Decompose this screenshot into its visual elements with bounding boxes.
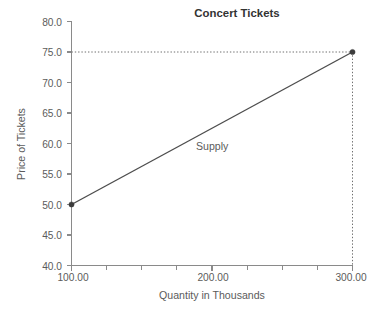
x-tick-label-300: 300.00 bbox=[335, 272, 366, 283]
y-tick-label-70: 70.0 bbox=[42, 78, 62, 89]
y-tick-label-80: 80.0 bbox=[42, 17, 62, 28]
y-tick-label-75: 75.0 bbox=[42, 47, 62, 58]
y-tick-label-60: 60.0 bbox=[42, 139, 62, 150]
supply-point-high bbox=[350, 49, 355, 54]
y-axis-title: Price of Tickets bbox=[15, 108, 27, 180]
chart-figure: Concert Tickets 80.0 75.0 70.0 65.0 60.0… bbox=[0, 0, 388, 315]
x-tick-label-100: 100.00 bbox=[57, 272, 88, 283]
supply-point-low bbox=[69, 202, 74, 207]
y-axis-tick-labels: 80.0 75.0 70.0 65.0 60.0 55.0 50.0 45.0 … bbox=[42, 17, 62, 272]
y-tick-label-40: 40.0 bbox=[42, 261, 62, 272]
y-tick-label-45: 45.0 bbox=[42, 230, 62, 241]
supply-series-label: Supply bbox=[196, 140, 229, 152]
y-tick-label-50: 50.0 bbox=[42, 200, 62, 211]
y-tick-label-65: 65.0 bbox=[42, 108, 62, 119]
x-axis-title: Quantity in Thousands bbox=[159, 289, 265, 301]
y-tick-label-55: 55.0 bbox=[42, 169, 62, 180]
chart-title: Concert Tickets bbox=[194, 7, 279, 19]
concert-tickets-line-chart: Concert Tickets 80.0 75.0 70.0 65.0 60.0… bbox=[0, 0, 388, 315]
x-tick-label-200: 200.00 bbox=[197, 272, 228, 283]
